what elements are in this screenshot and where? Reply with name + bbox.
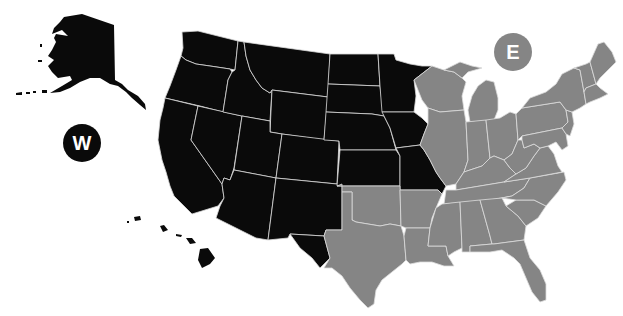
east-region-label: E [506, 41, 519, 64]
state-arizona [216, 170, 276, 240]
state-florida [470, 240, 546, 302]
east-region-badge: E [494, 33, 532, 71]
state-hawaii [127, 216, 215, 268]
state-north-dakota [328, 54, 380, 86]
state-colorado [276, 134, 339, 184]
state-maine [590, 42, 616, 84]
state-kansas [337, 150, 400, 186]
state-south-dakota [326, 84, 384, 116]
west-region-label: W [73, 132, 92, 155]
state-southern-new-england [584, 84, 608, 104]
state-wyoming [270, 90, 328, 140]
aleutian-islands [16, 44, 47, 95]
state-alaska [48, 14, 146, 110]
state-texas-west [290, 234, 330, 268]
west-region-badge: W [63, 124, 101, 162]
